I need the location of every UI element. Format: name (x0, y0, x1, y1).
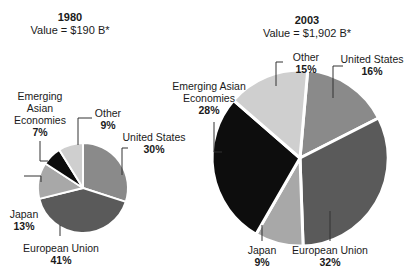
label-2003-emerging-line2: Economies (170, 92, 248, 104)
label-1980-japan-pct: 13% (6, 220, 42, 232)
label-1980-emerging-asian: Emerging Asian Economies 7% (12, 90, 68, 138)
chart-1980-title: 1980 (40, 11, 100, 23)
label-1980-other: Other 9% (88, 107, 128, 131)
chart-2003-subtitle: Value = $1,902 B* (257, 27, 357, 39)
label-2003-european-union: European Union 32% (288, 244, 372, 268)
chart-2003-title: 2003 (277, 14, 337, 26)
label-2003-japan-pct: 9% (244, 256, 280, 268)
label-2003-emerging-asian: Emerging Asian Economies 28% (170, 80, 248, 116)
label-1980-united-states: United States 30% (118, 131, 190, 155)
label-2003-us-pct: 16% (336, 65, 408, 77)
chart-1980-subtitle: Value = $190 B* (30, 24, 110, 36)
label-1980-european-union: European Union 41% (20, 242, 102, 266)
label-1980-japan: Japan 13% (6, 208, 42, 232)
label-2003-other-name: Other (288, 51, 324, 63)
label-2003-us-name: United States (336, 53, 408, 65)
label-2003-emerging-line1: Emerging Asian (170, 80, 248, 92)
label-2003-eu-pct: 32% (288, 256, 372, 268)
label-2003-japan-name: Japan (244, 244, 280, 256)
label-1980-us-name: United States (118, 131, 190, 143)
label-1980-other-name: Other (88, 107, 128, 119)
label-1980-emerging-line2: Asian (12, 102, 68, 114)
label-1980-eu-name: European Union (20, 242, 102, 254)
label-2003-other-pct: 15% (288, 63, 324, 75)
pie-charts-graphic (0, 0, 410, 277)
label-2003-japan: Japan 9% (244, 244, 280, 268)
label-1980-emerging-line3: Economies (12, 114, 68, 126)
pie-1980 (38, 143, 128, 233)
label-2003-emerging-pct: 28% (170, 104, 248, 116)
label-1980-other-pct: 9% (88, 119, 128, 131)
label-1980-us-pct: 30% (118, 143, 190, 155)
label-2003-other: Other 15% (288, 51, 324, 75)
label-2003-united-states: United States 16% (336, 53, 408, 77)
label-1980-eu-pct: 41% (20, 254, 102, 266)
label-2003-eu-name: European Union (288, 244, 372, 256)
label-1980-japan-name: Japan (6, 208, 42, 220)
label-1980-emerging-line1: Emerging (12, 90, 68, 102)
label-1980-emerging-pct: 7% (12, 126, 68, 138)
